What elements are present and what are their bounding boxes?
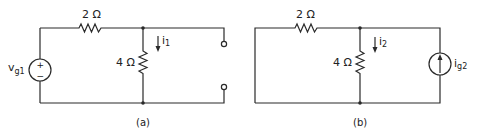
current-source-arrow-up-icon bbox=[438, 54, 443, 60]
current-arrow-down-icon bbox=[156, 46, 161, 52]
source-plus-sign: + bbox=[37, 60, 45, 70]
circuit-b: 2 Ω 4 Ω i2 ig2 (b) bbox=[255, 8, 467, 128]
current-arrow-down-icon bbox=[373, 47, 378, 53]
wire-bottom-b bbox=[255, 75, 440, 103]
circuit-diagram: + − vg1 2 Ω 4 Ω i1 (a) 2 Ω 4 Ω bbox=[0, 0, 481, 136]
source-label-a: vg1 bbox=[8, 61, 25, 76]
shunt-resistor-a bbox=[139, 28, 147, 103]
shunt-resistor-label-b: 4 Ω bbox=[333, 56, 352, 69]
source-minus-sign: − bbox=[37, 71, 45, 81]
series-resistor-label-a: 2 Ω bbox=[82, 8, 101, 21]
current-label-a: i1 bbox=[162, 34, 170, 48]
shunt-resistor-label-a: 4 Ω bbox=[116, 56, 135, 69]
caption-a: (a) bbox=[136, 117, 150, 128]
shunt-resistor-b bbox=[356, 28, 364, 103]
source-label-b: ig2 bbox=[454, 57, 467, 71]
series-resistor-label-b: 2 Ω bbox=[296, 8, 315, 21]
current-label-b: i2 bbox=[379, 35, 387, 49]
wire-top-a-with-resistor bbox=[40, 24, 224, 41]
circuit-a: + − vg1 2 Ω 4 Ω i1 (a) bbox=[8, 8, 227, 128]
open-terminal-bottom bbox=[221, 84, 226, 89]
open-terminal-top bbox=[221, 41, 226, 46]
caption-b: (b) bbox=[353, 117, 367, 128]
wire-bottom-a bbox=[40, 90, 224, 103]
